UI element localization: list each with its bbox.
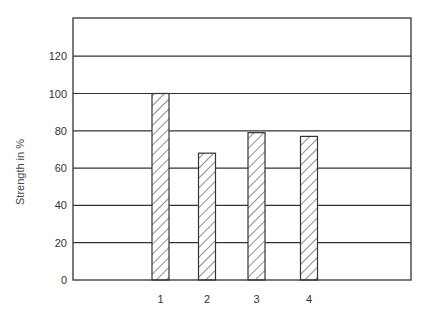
bars xyxy=(152,94,318,281)
x-axis-ticks: 1234 xyxy=(157,293,312,305)
y-tick-label: 80 xyxy=(55,125,67,137)
x-tick-label: 2 xyxy=(204,293,210,305)
bar-3 xyxy=(248,133,265,280)
x-tick-label: 1 xyxy=(157,293,163,305)
y-tick-label: 100 xyxy=(49,88,67,100)
gridlines xyxy=(73,56,411,243)
plot-frame xyxy=(73,18,411,280)
bar-1 xyxy=(152,94,169,281)
y-tick-label: 60 xyxy=(55,162,67,174)
y-tick-label: 0 xyxy=(61,274,67,286)
bar-chart: 020406080100120 1234 Strength in % xyxy=(0,0,428,317)
x-tick-label: 3 xyxy=(253,293,259,305)
y-tick-label: 120 xyxy=(49,50,67,62)
y-axis-title: Strength in % xyxy=(14,139,26,205)
x-tick-label: 4 xyxy=(306,293,312,305)
y-tick-label: 20 xyxy=(55,237,67,249)
y-axis-ticks: 020406080100120 xyxy=(49,50,67,286)
bar-2 xyxy=(199,153,216,280)
bar-4 xyxy=(301,136,318,280)
y-tick-label: 40 xyxy=(55,199,67,211)
